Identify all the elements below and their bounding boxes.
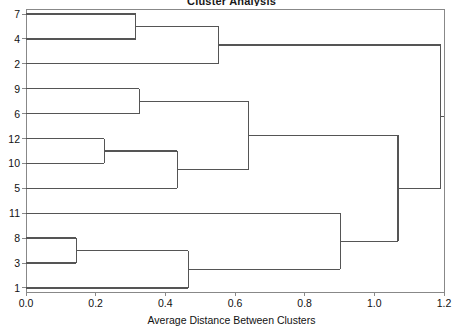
- leaf-label: 7: [0, 9, 20, 19]
- leaf-label: 2: [0, 59, 20, 69]
- x-axis-title: Average Distance Between Clusters: [0, 314, 463, 326]
- x-tick-label: 0.8: [285, 298, 325, 309]
- x-tick-label: 0.4: [145, 298, 185, 309]
- dendrogram-plot: [0, 0, 463, 332]
- leaf-label: 4: [0, 34, 20, 44]
- x-tick-label: 0.2: [76, 298, 116, 309]
- dendrogram-figure: Cluster Analysis 0.00.20.40.60.81.01.274…: [0, 0, 463, 332]
- leaf-label: 3: [0, 258, 20, 268]
- x-tick-label: 1.2: [424, 298, 463, 309]
- leaf-label: 9: [0, 84, 20, 94]
- leaf-label: 11: [0, 208, 20, 218]
- leaf-label: 8: [0, 233, 20, 243]
- x-tick-label: 0.6: [215, 298, 255, 309]
- leaf-label: 12: [0, 134, 20, 144]
- x-tick-label: 0.0: [6, 298, 46, 309]
- leaf-label: 10: [0, 158, 20, 168]
- x-tick-label: 1.0: [354, 298, 394, 309]
- leaf-label: 1: [0, 283, 20, 293]
- leaf-label: 6: [0, 109, 20, 119]
- leaf-label: 5: [0, 183, 20, 193]
